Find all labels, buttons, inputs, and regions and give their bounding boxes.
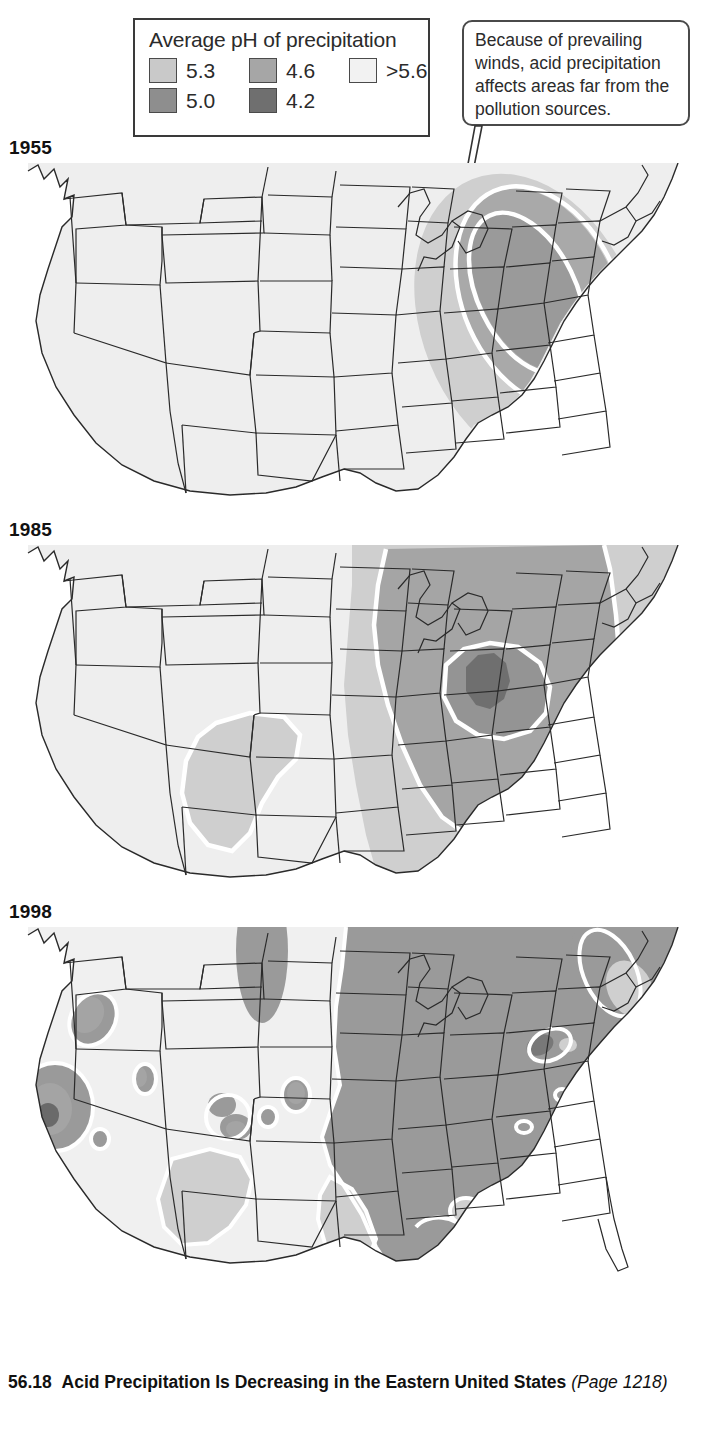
legend-swatch-42	[249, 88, 277, 113]
legend-item-42: 4.2	[249, 88, 349, 113]
legend-item-gt56: >5.6	[349, 58, 427, 83]
map-panel-1955	[0, 163, 703, 503]
map-year-label-1955: 1955	[9, 137, 52, 159]
map-panel-1985	[0, 545, 703, 885]
legend-item-50: 5.0	[149, 88, 249, 113]
figure-caption: 56.18 Acid Precipitation Is Decreasing i…	[8, 1370, 668, 1394]
callout-box: Because of prevailing winds, acid precip…	[462, 20, 690, 126]
figure-acid-precipitation: Average pH of precipitation 5.3 4.6 >5.6	[0, 0, 703, 1429]
legend-row-top: 5.3 4.6 >5.6	[149, 58, 428, 83]
map-svg-1955	[0, 163, 703, 503]
map-year-label-1985: 1985	[9, 519, 52, 541]
map-panel-1998	[0, 927, 703, 1277]
legend-swatch-46	[249, 58, 277, 83]
legend-swatch-50	[149, 88, 177, 113]
legend-item-46: 4.6	[249, 58, 349, 83]
map-year-label-1998: 1998	[9, 901, 52, 923]
legend-label-gt56: >5.6	[386, 59, 427, 83]
legend-label-42: 4.2	[286, 89, 315, 113]
caption-page: (Page 1218)	[571, 1372, 667, 1392]
legend-label-46: 4.6	[286, 59, 315, 83]
legend-title: Average pH of precipitation	[149, 28, 428, 52]
caption-title: Acid Precipitation Is Decreasing in the …	[62, 1372, 567, 1392]
callout-text: Because of prevailing winds, acid precip…	[475, 29, 679, 121]
legend-rows: 5.3 4.6 >5.6 5.0 4.2	[149, 58, 428, 113]
legend-swatch-53	[149, 58, 177, 83]
map-svg-1998	[0, 927, 703, 1277]
legend-row-bottom: 5.0 4.2	[149, 88, 428, 113]
legend-swatch-gt56	[349, 58, 377, 83]
legend-label-50: 5.0	[186, 89, 215, 113]
map-svg-1985	[0, 545, 703, 885]
legend-item-53: 5.3	[149, 58, 249, 83]
caption-number: 56.18	[8, 1372, 52, 1392]
map-legend: Average pH of precipitation 5.3 4.6 >5.6	[133, 18, 430, 137]
legend-label-53: 5.3	[186, 59, 215, 83]
